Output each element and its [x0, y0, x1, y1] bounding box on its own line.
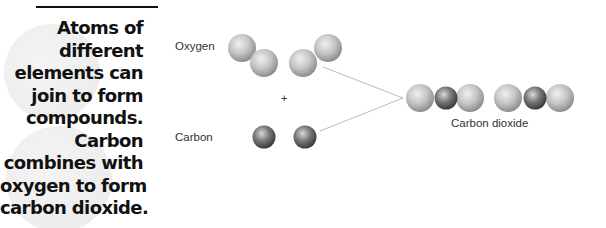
oxygen-label: Oxygen	[175, 40, 215, 52]
oxygen-atom-icon	[546, 84, 574, 112]
carbon-atom-icon	[294, 126, 317, 149]
oxygen-atom-icon	[250, 49, 278, 77]
oxygen-atom-icon	[406, 84, 434, 112]
carbon-dioxide-molecule-1	[406, 84, 484, 112]
oxygen-atom-icon	[314, 34, 342, 62]
carbon-label: Carbon	[175, 131, 213, 143]
plus-sign: +	[281, 92, 287, 104]
carbon-atom-icon	[435, 87, 458, 110]
carbon-dioxide-molecule-2	[494, 84, 574, 112]
carbon-atom-icon	[253, 126, 276, 149]
oxygen-atom-icon	[456, 84, 484, 112]
oxygen-molecule-1	[228, 34, 278, 77]
oxygen-atom-icon	[289, 49, 317, 77]
carbon-dioxide-label: Carbon dioxide	[451, 117, 528, 129]
connector-line-oxygen	[323, 67, 403, 98]
carbon-atom-icon	[524, 87, 547, 110]
connector-line-carbon	[320, 98, 403, 131]
oxygen-atom-icon	[494, 84, 522, 112]
oxygen-molecule-2	[289, 34, 342, 77]
reaction-diagram	[0, 0, 606, 228]
